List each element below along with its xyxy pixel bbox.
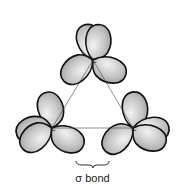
carbon-label-top: C — [91, 56, 97, 65]
orbital-diagram: C C C — [0, 0, 185, 193]
sigma-bond-label: σ bond — [0, 172, 185, 184]
sigma-bond-brace — [76, 161, 109, 168]
carbon-label-left: C — [50, 124, 56, 133]
carbon-label-right: C — [131, 124, 137, 133]
